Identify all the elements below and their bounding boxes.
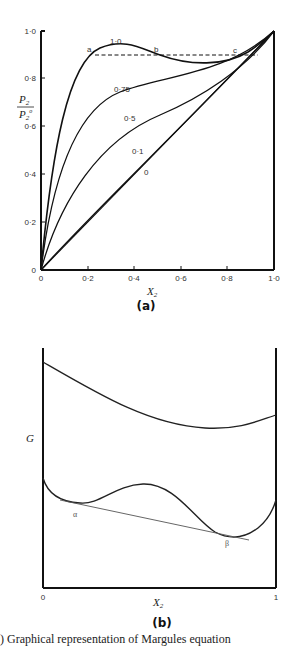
common-tangent-line xyxy=(60,500,249,540)
y-tick-label: 0·2 xyxy=(24,218,36,227)
upper-g-curve xyxy=(43,362,276,428)
y-tick-label: 0·8 xyxy=(24,74,36,83)
panel-b-y-axis-label: G xyxy=(26,432,34,444)
y-tick-label: 1·0 xyxy=(24,27,36,36)
panel-a-x-ticks: 0 0·2 0·4 0·6 0·8 1·0 xyxy=(39,266,281,283)
x-tick-label: 0·8 xyxy=(221,274,233,283)
beta-label: β xyxy=(225,539,229,548)
panel-b: α β G 0 1 X2 (b) xyxy=(26,348,279,630)
panel-b-x-tick-1: 1 xyxy=(274,593,279,602)
x-tick-label: 0·2 xyxy=(82,274,94,283)
panel-a-x-axis-label: X2 xyxy=(146,285,158,299)
point-label-b: b xyxy=(154,45,159,54)
panel-b-x-tick-0: 0 xyxy=(41,593,46,602)
alpha-label: α xyxy=(73,510,78,519)
curve-label-0-75: 0·75 xyxy=(114,85,131,94)
point-label-a: a xyxy=(87,45,92,54)
panel-b-x-axis-label: X2 xyxy=(152,596,164,610)
panel-a-label: (a) xyxy=(136,299,155,313)
y-tick-label: 0 xyxy=(32,266,37,275)
panel-a-y-axis-label: P2 P2o xyxy=(17,93,34,122)
curve-label-0: 0 xyxy=(144,168,149,177)
x-tick-label: 0·6 xyxy=(175,274,187,283)
point-label-c: c xyxy=(233,46,237,55)
panel-a: 0 0·2 0·4 0·6 0·8 1·0 0 0·2 0·4 0·6 0·8 … xyxy=(17,27,280,313)
figure-canvas: 0 0·2 0·4 0·6 0·8 1·0 0 0·2 0·4 0·6 0·8 … xyxy=(0,0,292,646)
svg-text:P2o: P2o xyxy=(18,108,32,122)
x-tick-label: 0·4 xyxy=(128,274,140,283)
panel-b-label: (b) xyxy=(152,616,172,630)
x-tick-label: 1·0 xyxy=(268,274,280,283)
svg-text:P2: P2 xyxy=(18,93,30,107)
y-tick-label: 0·4 xyxy=(24,170,36,179)
lower-g-curve xyxy=(43,478,276,537)
y-tick-label: 0·6 xyxy=(24,122,36,131)
x-tick-label: 0 xyxy=(39,274,44,283)
figure-caption: ) Graphical representation of Margules e… xyxy=(0,632,292,646)
curve-label-1-0: 1·0 xyxy=(110,37,122,46)
curve-label-0-5: 0·5 xyxy=(124,114,136,123)
curve-label-0-1: 0·1 xyxy=(132,147,144,156)
panel-a-curves xyxy=(41,31,274,270)
